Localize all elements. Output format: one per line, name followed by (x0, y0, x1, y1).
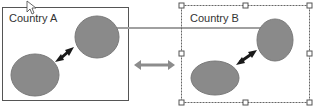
resize-handle-top-center (243, 3, 248, 8)
country-a-label: Country A (9, 12, 57, 24)
resize-handle-bottom-center (243, 100, 248, 105)
country-b-double-arrow-icon (236, 50, 257, 65)
resize-handle-bottom-right (307, 100, 312, 105)
resize-handle-middle-right (307, 51, 312, 56)
country-a-double-arrow-icon (55, 47, 74, 62)
middle-double-arrow-icon (134, 60, 175, 70)
country-b-ellipse-bottom[interactable] (191, 61, 239, 95)
country-a-ellipse-top[interactable] (75, 16, 119, 58)
resize-handle-top-right (307, 3, 312, 8)
resize-handle-bottom-left (179, 100, 184, 105)
country-b-ellipse-top[interactable] (257, 19, 293, 61)
resize-handle-top-left (179, 3, 184, 8)
country-b-label: Country B (190, 12, 239, 24)
country-a-ellipse-bottom[interactable] (11, 54, 59, 96)
resize-handle-middle-left (179, 51, 184, 56)
